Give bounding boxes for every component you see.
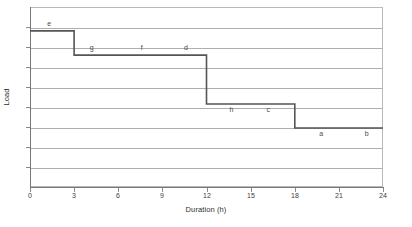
gridline [31,128,382,129]
segment-label-c: c [267,106,271,113]
segment-label-a: a [319,130,323,137]
segment-label-e: e [47,20,51,27]
x-axis-tick-label: 15 [247,192,255,199]
segment-label-f: f [141,44,143,51]
y-axis-line [30,7,31,188]
y-axis-tick [26,107,30,108]
y-axis-tick [26,47,30,48]
y-axis-title: Load [2,88,11,105]
plot-area [30,7,383,187]
x-axis-tick-label: 9 [160,192,164,199]
x-axis-tick-label: 18 [291,192,299,199]
load-duration-chart-figure: Load Duration (h) 03691215182124egfdhcab [0,0,412,227]
gridline [31,68,382,69]
gridline [31,148,382,149]
gridline [31,28,382,29]
segment-label-h: h [230,106,234,113]
segment-label-g: g [90,44,94,51]
gridline [31,108,382,109]
y-axis-tick [26,27,30,28]
x-axis-tick-label: 6 [116,192,120,199]
x-axis-tick-label: 21 [335,192,343,199]
segment-label-d: d [184,44,188,51]
segment-label-b: b [365,130,369,137]
y-axis-tick [26,87,30,88]
gridline [31,168,382,169]
y-axis-tick [26,167,30,168]
x-axis-title: Duration (h) [0,205,412,214]
y-axis-tick [26,127,30,128]
gridline [31,88,382,89]
gridline [31,48,382,49]
x-axis-tick-label: 12 [203,192,211,199]
y-axis-tick [26,67,30,68]
x-axis-tick-label: 3 [72,192,76,199]
x-axis-tick-label: 24 [379,192,387,199]
y-axis-tick [26,147,30,148]
x-axis-tick-label: 0 [28,192,32,199]
